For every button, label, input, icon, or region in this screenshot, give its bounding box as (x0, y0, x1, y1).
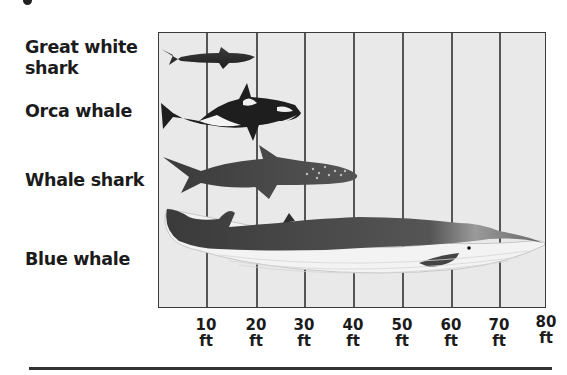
x-tick-40: 40 ft (333, 317, 373, 349)
bottom-rule-divider (29, 367, 552, 370)
x-tick-10: 10 ft (186, 317, 226, 349)
label-orca-whale: Orca whale (25, 101, 132, 122)
x-tick-80: 80 ft (526, 314, 566, 346)
label-line-2: shark (25, 58, 138, 79)
x-tick-60: 60 ft (431, 317, 471, 349)
tick-value: 10 (186, 317, 226, 333)
great-white-shark-icon (161, 47, 255, 69)
x-tick-30: 30 ft (284, 317, 324, 349)
label-whale-shark: Whale shark (25, 170, 144, 191)
x-tick-70: 70 ft (479, 317, 519, 349)
tick-value: 80 (526, 314, 566, 330)
orca-whale-icon (161, 83, 301, 141)
x-tick-50: 50 ft (382, 317, 422, 349)
corner-mark (23, 0, 32, 5)
tick-unit: ft (333, 333, 373, 349)
tick-unit: ft (479, 333, 519, 349)
whale-shark-icon (163, 145, 357, 199)
tick-value: 30 (284, 317, 324, 333)
tick-value: 60 (431, 317, 471, 333)
label-blue-whale: Blue whale (25, 249, 130, 270)
tick-value: 40 (333, 317, 373, 333)
tick-value: 20 (236, 317, 276, 333)
tick-value: 70 (479, 317, 519, 333)
tick-unit: ft (431, 333, 471, 349)
x-tick-20: 20 ft (236, 317, 276, 349)
tick-unit: ft (186, 333, 226, 349)
tick-unit: ft (526, 330, 566, 346)
label-great-white-shark: Great white shark (25, 37, 138, 79)
chart-plot-area (158, 32, 546, 308)
label-line-1: Great white (25, 37, 138, 58)
tick-value: 50 (382, 317, 422, 333)
tick-unit: ft (382, 333, 422, 349)
animal-silhouettes (159, 33, 546, 308)
tick-unit: ft (284, 333, 324, 349)
blue-whale-icon (165, 209, 545, 273)
tick-unit: ft (236, 333, 276, 349)
